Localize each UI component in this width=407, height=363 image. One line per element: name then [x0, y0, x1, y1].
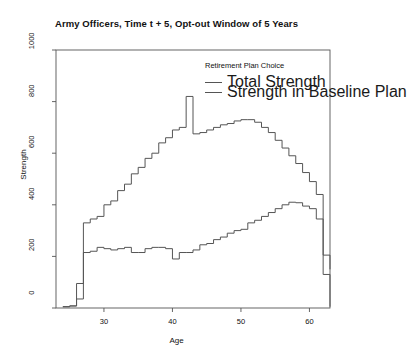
chart-title: Army Officers, Time t + 5, Opt-out Windo… — [0, 18, 353, 29]
x-tick-label: 30 — [89, 317, 119, 326]
legend-line-swatch — [205, 92, 222, 93]
x-tick-label: 40 — [157, 317, 187, 326]
legend-title: Retirement Plan Choice — [205, 61, 284, 70]
x-axis-label: Age — [0, 336, 353, 345]
series-line-baseline-plan — [63, 202, 330, 306]
series-line-total-strength — [63, 96, 330, 306]
y-tick-label: 400 — [27, 187, 36, 221]
y-tick-label: 200 — [27, 239, 36, 273]
y-tick-label: 1000 — [27, 33, 36, 67]
y-tick-label: 0 — [27, 291, 36, 325]
legend-item-label: Strength in Baseline Plan — [227, 83, 407, 101]
legend-item: Strength in Baseline Plan — [205, 83, 407, 101]
x-tick-label: 60 — [294, 317, 324, 326]
y-tick-label: 800 — [27, 84, 36, 118]
y-tick-label: 600 — [27, 136, 36, 170]
x-tick-label: 50 — [226, 317, 256, 326]
